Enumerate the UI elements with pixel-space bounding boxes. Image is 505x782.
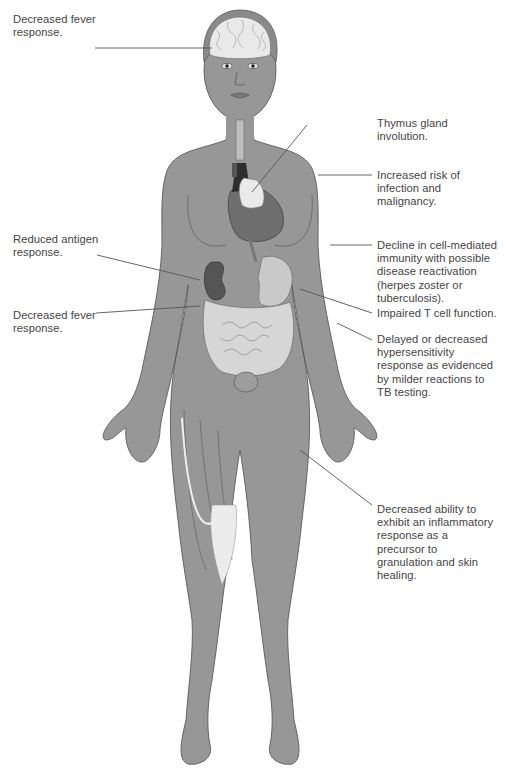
trachea [236, 120, 244, 160]
label-decreased-fever-abdomen: Decreased fever response. [13, 309, 96, 335]
label-cell-mediated: Decline in cell-mediated immunity with p… [377, 239, 497, 305]
label-hypersensitivity: Delayed or decreased hypersensitivity re… [377, 333, 493, 399]
label-infection-risk: Increased risk of infection and malignan… [377, 169, 460, 209]
label-t-cell: Impaired T cell function. [377, 307, 497, 320]
label-reduced-antigen: Reduced antigen response. [13, 233, 98, 259]
intestines-illustration [203, 300, 294, 376]
kidney-illustration [204, 262, 225, 300]
bladder-illustration [234, 372, 258, 392]
label-decreased-fever-head: Decreased fever response. [13, 13, 96, 39]
label-inflammatory: Decreased ability to exhibit an inflamma… [377, 503, 493, 582]
label-thymus: Thymus gland involution. [377, 117, 448, 143]
